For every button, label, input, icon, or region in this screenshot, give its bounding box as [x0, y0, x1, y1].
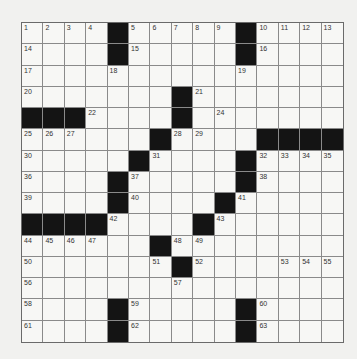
- grid-cell[interactable]: 13: [322, 23, 343, 44]
- grid-cell[interactable]: 32: [257, 151, 278, 172]
- grid-cell[interactable]: [108, 257, 129, 278]
- grid-cell[interactable]: [43, 257, 64, 278]
- grid-cell[interactable]: [279, 87, 300, 108]
- grid-cell[interactable]: [65, 193, 86, 214]
- grid-cell[interactable]: [150, 321, 171, 342]
- grid-cell[interactable]: [300, 236, 321, 257]
- grid-cell[interactable]: [65, 257, 86, 278]
- grid-cell[interactable]: [43, 299, 64, 320]
- grid-cell[interactable]: [300, 44, 321, 65]
- grid-cell[interactable]: [215, 278, 236, 299]
- grid-cell[interactable]: [193, 108, 214, 129]
- grid-cell[interactable]: [322, 108, 343, 129]
- grid-cell[interactable]: [236, 214, 257, 235]
- grid-cell[interactable]: [172, 321, 193, 342]
- grid-cell[interactable]: [279, 214, 300, 235]
- grid-cell[interactable]: 24: [215, 108, 236, 129]
- grid-cell[interactable]: [193, 193, 214, 214]
- grid-cell[interactable]: [300, 108, 321, 129]
- grid-cell[interactable]: 43: [215, 214, 236, 235]
- grid-cell[interactable]: [65, 321, 86, 342]
- grid-cell[interactable]: [86, 278, 107, 299]
- grid-cell[interactable]: [215, 236, 236, 257]
- grid-cell[interactable]: [236, 278, 257, 299]
- grid-cell[interactable]: [322, 87, 343, 108]
- grid-cell[interactable]: [86, 44, 107, 65]
- grid-cell[interactable]: [322, 44, 343, 65]
- grid-cell[interactable]: [172, 172, 193, 193]
- grid-cell[interactable]: [257, 193, 278, 214]
- grid-cell[interactable]: 40: [129, 193, 150, 214]
- grid-cell[interactable]: [236, 87, 257, 108]
- grid-cell[interactable]: [43, 278, 64, 299]
- grid-cell[interactable]: 8: [193, 23, 214, 44]
- grid-cell[interactable]: [322, 321, 343, 342]
- grid-cell[interactable]: 58: [22, 299, 43, 320]
- grid-cell[interactable]: [108, 236, 129, 257]
- grid-cell[interactable]: 3: [65, 23, 86, 44]
- grid-cell[interactable]: [257, 87, 278, 108]
- grid-cell[interactable]: [150, 299, 171, 320]
- grid-cell[interactable]: [108, 278, 129, 299]
- grid-cell[interactable]: [193, 172, 214, 193]
- grid-cell[interactable]: 1: [22, 23, 43, 44]
- grid-cell[interactable]: [215, 87, 236, 108]
- grid-cell[interactable]: 46: [65, 236, 86, 257]
- grid-cell[interactable]: [43, 151, 64, 172]
- grid-cell[interactable]: 26: [43, 129, 64, 150]
- grid-cell[interactable]: [86, 172, 107, 193]
- grid-cell[interactable]: [257, 278, 278, 299]
- grid-cell[interactable]: 33: [279, 151, 300, 172]
- grid-cell[interactable]: [322, 278, 343, 299]
- grid-cell[interactable]: 45: [43, 236, 64, 257]
- grid-cell[interactable]: [193, 321, 214, 342]
- grid-cell[interactable]: [172, 299, 193, 320]
- grid-cell[interactable]: [150, 214, 171, 235]
- grid-cell[interactable]: 15: [129, 44, 150, 65]
- grid-cell[interactable]: [279, 299, 300, 320]
- grid-cell[interactable]: [150, 172, 171, 193]
- grid-cell[interactable]: [65, 299, 86, 320]
- grid-cell[interactable]: [129, 66, 150, 87]
- grid-cell[interactable]: [215, 44, 236, 65]
- grid-cell[interactable]: 7: [172, 23, 193, 44]
- grid-cell[interactable]: [129, 87, 150, 108]
- grid-cell[interactable]: [322, 66, 343, 87]
- grid-cell[interactable]: [236, 108, 257, 129]
- grid-cell[interactable]: [65, 44, 86, 65]
- grid-cell[interactable]: 54: [300, 257, 321, 278]
- grid-cell[interactable]: [215, 66, 236, 87]
- grid-cell[interactable]: [65, 87, 86, 108]
- grid-cell[interactable]: [279, 172, 300, 193]
- grid-cell[interactable]: [215, 172, 236, 193]
- grid-cell[interactable]: [193, 66, 214, 87]
- grid-cell[interactable]: 29: [193, 129, 214, 150]
- grid-cell[interactable]: [322, 193, 343, 214]
- grid-cell[interactable]: [86, 257, 107, 278]
- grid-cell[interactable]: 59: [129, 299, 150, 320]
- grid-cell[interactable]: [43, 87, 64, 108]
- grid-cell[interactable]: [129, 278, 150, 299]
- grid-cell[interactable]: [129, 108, 150, 129]
- grid-cell[interactable]: [86, 193, 107, 214]
- grid-cell[interactable]: 48: [172, 236, 193, 257]
- grid-cell[interactable]: 21: [193, 87, 214, 108]
- grid-cell[interactable]: [86, 129, 107, 150]
- grid-cell[interactable]: [193, 278, 214, 299]
- grid-cell[interactable]: [129, 257, 150, 278]
- grid-cell[interactable]: 53: [279, 257, 300, 278]
- grid-cell[interactable]: 4: [86, 23, 107, 44]
- grid-cell[interactable]: [279, 278, 300, 299]
- grid-cell[interactable]: 39: [22, 193, 43, 214]
- grid-cell[interactable]: [300, 172, 321, 193]
- grid-cell[interactable]: [193, 44, 214, 65]
- grid-cell[interactable]: 14: [22, 44, 43, 65]
- grid-cell[interactable]: [108, 129, 129, 150]
- grid-cell[interactable]: [215, 151, 236, 172]
- grid-cell[interactable]: [236, 257, 257, 278]
- grid-cell[interactable]: [322, 299, 343, 320]
- grid-cell[interactable]: [193, 299, 214, 320]
- grid-cell[interactable]: 10: [257, 23, 278, 44]
- grid-cell[interactable]: [300, 299, 321, 320]
- grid-cell[interactable]: [257, 108, 278, 129]
